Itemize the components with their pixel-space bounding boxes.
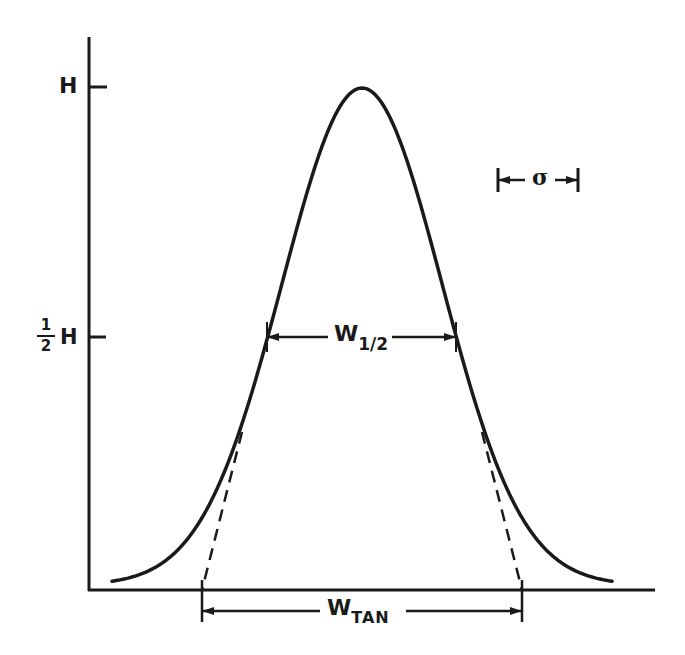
w-half-subscript: 1/2 [358, 334, 388, 354]
tangent-line-right [482, 432, 522, 590]
label-w-tan: WTAN [327, 597, 390, 619]
half-height-numerator: 1 [35, 318, 57, 333]
label-height: H [59, 75, 77, 97]
w-tan-subscript: TAN [351, 608, 389, 627]
label-half-height-symbol: H [60, 327, 78, 348]
tangent-line-left [202, 432, 242, 590]
label-sigma: σ [532, 166, 548, 188]
w-half-main: W [334, 321, 358, 346]
half-height-denominator: 2 [35, 339, 57, 354]
label-half-height: 1 2 [35, 318, 57, 354]
w-tan-main: W [327, 595, 351, 620]
label-w-half: W1/2 [334, 323, 388, 345]
